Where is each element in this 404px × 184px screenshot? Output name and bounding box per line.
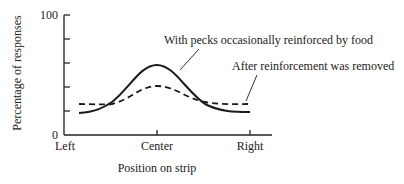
leader-line-solid [180,49,199,70]
y-tick-100: 100 [40,8,58,22]
x-tick-center: Center [141,139,173,153]
leader-line-dashed [246,75,257,101]
series-solid-line [79,65,250,113]
y-axis [64,15,70,135]
x-axis [64,130,272,135]
series-dashed-line [79,86,250,104]
annotation-dashed: After reinforcement was removed [232,59,394,73]
annotation-solid: With pecks occasionally reinforced by fo… [164,33,373,47]
x-tick-left: Left [55,139,76,153]
x-tick-right: Right [237,139,264,153]
y-axis-title: Percentage of responses [10,15,24,131]
chart: 100 0 Left Center Right Position on stri… [0,0,404,184]
x-axis-title: Position on strip [118,161,197,175]
